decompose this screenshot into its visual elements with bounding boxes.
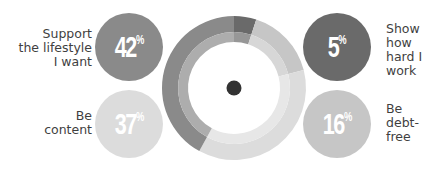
label-line: Show — [386, 22, 422, 36]
label-line: the lifestyle — [19, 41, 93, 55]
value-be-content: 37% — [114, 107, 143, 141]
label-line: free — [386, 130, 419, 144]
label-line: hard I — [386, 50, 422, 64]
label-show-hard-work: Show how hard I work — [386, 22, 422, 78]
bubble-support-lifestyle: 42% — [95, 13, 163, 81]
label-line: content — [44, 123, 92, 137]
center-dot — [227, 81, 242, 96]
value-be-debt-free: 16% — [322, 107, 351, 141]
donut-segment-outer — [199, 70, 306, 160]
label-line: debt- — [386, 116, 419, 130]
label-line: Be — [44, 109, 92, 123]
label-line: Be — [386, 102, 419, 116]
bubble-show-hard-work: 5% — [303, 13, 371, 81]
label-line: how — [386, 36, 422, 50]
label-support-lifestyle: Support the lifestyle I want — [19, 27, 93, 69]
label-line: I want — [19, 55, 93, 69]
bubble-be-debt-free: 16% — [303, 90, 371, 158]
label-line: work — [386, 64, 422, 78]
value-show-hard-work: 5% — [328, 30, 347, 64]
bubble-be-content: 37% — [95, 90, 163, 158]
label-be-content: Be content — [44, 109, 92, 137]
value-support-lifestyle: 42% — [114, 30, 143, 64]
label-line: Support — [19, 27, 93, 41]
label-be-debt-free: Be debt- free — [386, 102, 419, 144]
